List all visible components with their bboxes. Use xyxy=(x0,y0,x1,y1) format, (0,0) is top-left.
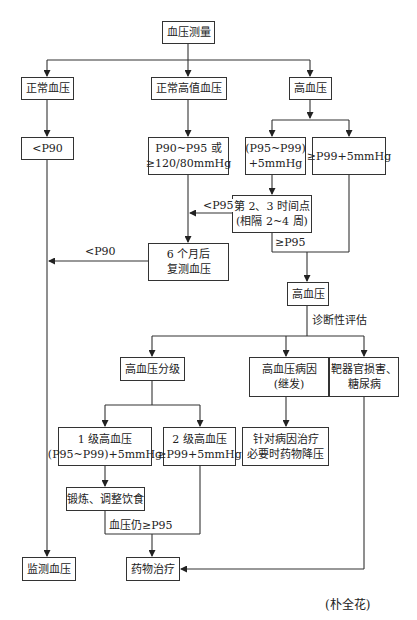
node-label-line1: (P95~P99) xyxy=(245,141,306,156)
node-label-line2: 必要时药物降压 xyxy=(247,447,324,462)
flowchart-canvas: 血压测量 正常血压 正常高值血压 高血压 <P90 P90~P95 或 ≥120… xyxy=(0,0,417,620)
node-label-line2: ≥120/80mmHg xyxy=(146,156,231,171)
node-label: 正常血压 xyxy=(26,81,70,96)
node-label: 药物治疗 xyxy=(131,562,175,577)
node-drug-therapy: 药物治疗 xyxy=(126,557,180,581)
node-lt-p90: <P90 xyxy=(21,137,74,160)
node-hypertension-top: 高血压 xyxy=(289,77,332,100)
node-label-line1: 靶器官损害、 xyxy=(331,362,397,377)
node-label: 锻炼、调整饮食 xyxy=(67,492,144,507)
node-hypertension-mid: 高血压 xyxy=(287,282,329,306)
node-ge-p99: ≥P99+5mmHg xyxy=(312,137,386,175)
node-label: 高血压分级 xyxy=(125,362,180,377)
node-label-line2: ≥P99+5mmHg xyxy=(157,447,241,462)
node-measure: 血压测量 xyxy=(162,21,215,44)
node-recheck: 6 个月后 复测血压 xyxy=(148,243,229,281)
edge-label-lt-p90: <P90 xyxy=(85,245,116,258)
node-grading: 高血压分级 xyxy=(120,357,185,381)
node-label: ≥P99+5mmHg xyxy=(307,149,391,164)
node-grade2: 2 级高血压 ≥P99+5mmHg xyxy=(163,427,236,466)
node-label: 正常高值血压 xyxy=(156,81,222,96)
author-caption: (朴全花) xyxy=(325,595,370,612)
node-label-line1: 6 个月后 xyxy=(167,247,211,262)
node-label: 高血压 xyxy=(292,287,325,302)
node-grade1: 1 级高血压 (P95~P99)+5mmHg xyxy=(58,427,152,466)
node-cause: 高血压病因 (继发) xyxy=(249,357,329,397)
node-p90-p95: P90~P95 或 ≥120/80mmHg xyxy=(148,137,229,175)
node-label-line2: 糖尿病 xyxy=(348,377,381,392)
edge-label-diagnostic-eval: 诊断性评估 xyxy=(312,314,367,327)
node-label-line1: 高血压病因 xyxy=(262,362,317,377)
node-timepoints: 第 2、3 时间点 (相隔 2~4 周) xyxy=(232,195,312,233)
node-label-line2: +5mmHg xyxy=(249,156,303,171)
node-high-normal: 正常高值血压 xyxy=(151,77,227,100)
node-label-line1: 1 级高血压 xyxy=(78,432,133,447)
node-label-line1: 第 2、3 时间点 xyxy=(234,199,310,214)
node-label-line2: (相隔 2~4 周) xyxy=(236,214,308,229)
node-label-line2: (继发) xyxy=(274,377,305,392)
node-label-line1: P90~P95 或 xyxy=(155,141,222,156)
edge-label-still-ge-p95: 血压仍≥P95 xyxy=(109,519,173,532)
node-label-line1: 2 级高血压 xyxy=(172,432,227,447)
node-label-line2: (P95~P99)+5mmHg xyxy=(48,447,162,462)
edge-label-lt-p95: <P95 xyxy=(203,199,234,212)
node-label-line2: 复测血压 xyxy=(167,262,211,277)
node-label: 血压测量 xyxy=(167,25,211,40)
node-p95-p99: (P95~P99) +5mmHg xyxy=(245,137,306,175)
node-normal: 正常血压 xyxy=(21,77,74,100)
node-organ-damage: 靶器官损害、 糖尿病 xyxy=(329,357,399,397)
node-label: 监测血压 xyxy=(27,562,71,577)
node-label: <P90 xyxy=(32,141,63,156)
node-monitor: 监测血压 xyxy=(22,557,76,581)
node-label-line1: 针对病因治疗 xyxy=(253,432,319,447)
node-lifestyle: 锻炼、调整饮食 xyxy=(66,487,145,511)
node-treat-cause: 针对病因治疗 必要时药物降压 xyxy=(242,427,329,466)
edge-label-ge-p95: ≥P95 xyxy=(275,236,306,249)
node-label: 高血压 xyxy=(294,81,327,96)
